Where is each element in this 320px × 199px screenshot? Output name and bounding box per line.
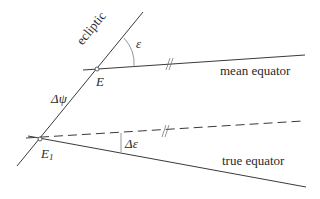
point-E1-main: E (41, 146, 49, 161)
mean-equator-label: mean equator (220, 64, 290, 77)
parallel-mark-icon (162, 125, 169, 137)
point-E1-label: E1 (41, 147, 53, 162)
true-equator-label: true equator (222, 154, 284, 167)
nutation-diagram (0, 0, 320, 199)
epsilon-angle-arc (124, 38, 134, 67)
point-E-label: E (96, 75, 104, 88)
point-E1 (38, 137, 42, 141)
delta-epsilon-label: Δε (125, 137, 138, 150)
point-E (95, 67, 99, 71)
delta-psi-label: Δψ (51, 92, 67, 105)
epsilon-label: ε (136, 37, 141, 50)
point-E1-subscript: 1 (49, 152, 54, 162)
